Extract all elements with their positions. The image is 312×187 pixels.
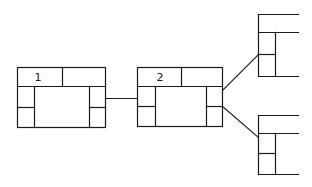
node-1-outline [18, 68, 106, 128]
node-1-label: 1 [35, 71, 42, 84]
node-1: 1 [18, 68, 106, 128]
node-2: 2 [138, 68, 223, 127]
edge-node2-node3 [223, 55, 259, 91]
node-3 [259, 15, 299, 77]
diagram-canvas: 1 2 [0, 0, 312, 187]
node-2-label: 2 [157, 71, 164, 84]
node-4 [259, 116, 299, 175]
edge-node2-node4 [223, 107, 259, 138]
node-2-outline [138, 68, 223, 127]
